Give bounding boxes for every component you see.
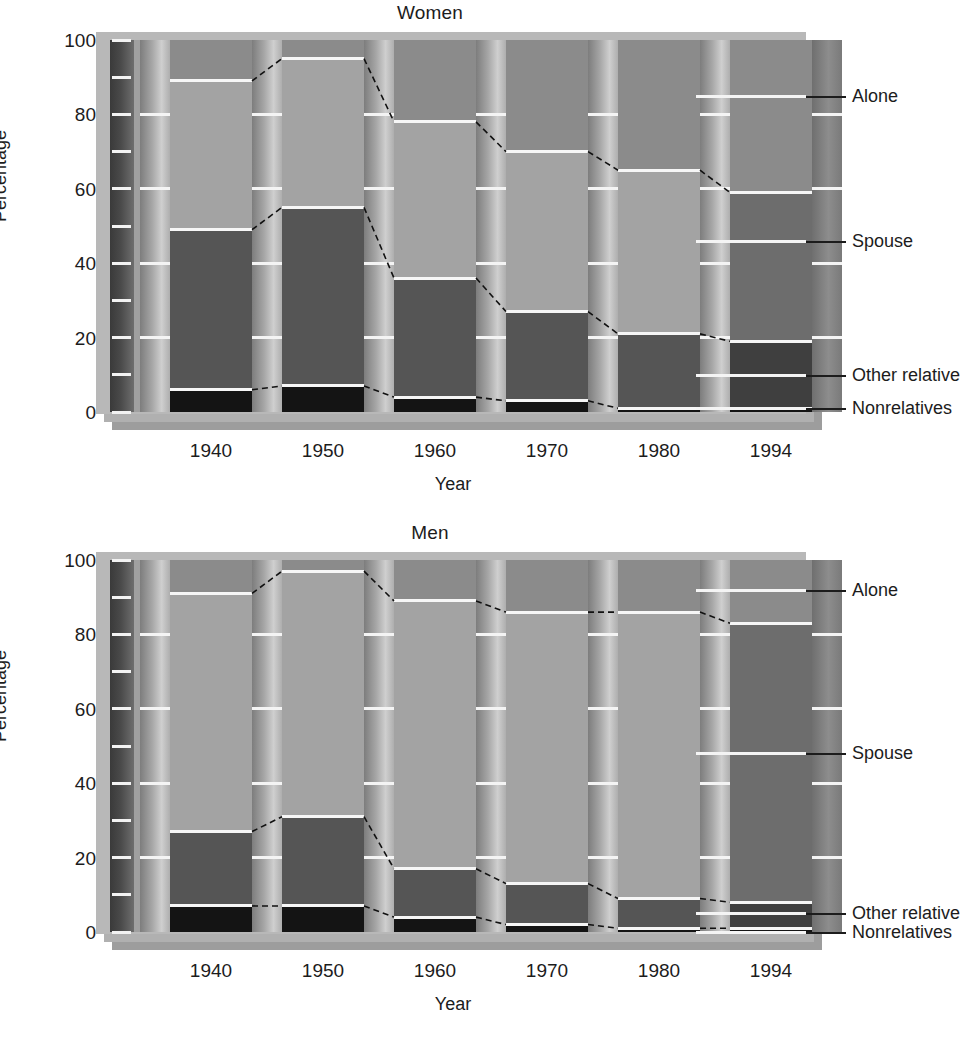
bar-gap-column [364, 560, 394, 932]
y-axis-tick [112, 596, 131, 599]
bar-segment-other-relatives [170, 230, 252, 390]
bar-segment-spouse [394, 601, 476, 869]
segment-separator [170, 388, 252, 391]
y-axis-tick [112, 299, 131, 302]
segment-separator [170, 79, 252, 82]
gap-gridline [476, 707, 506, 710]
gap-gridline [588, 633, 618, 636]
y-axis-tick [112, 782, 131, 785]
segment-separator [282, 384, 364, 387]
stacked-bar[interactable] [394, 40, 476, 412]
stacked-bar[interactable] [506, 560, 588, 932]
y-axis-tick [112, 262, 131, 265]
segment-separator [394, 120, 476, 123]
stacked-bar[interactable] [282, 560, 364, 932]
y-axis-tick-label: 100 [64, 551, 96, 570]
bar-gap-column [476, 560, 506, 932]
chart-title-women: Women [0, 2, 860, 24]
stacked-bar[interactable] [282, 40, 364, 412]
bar-segment-spouse [730, 193, 812, 342]
bar-gap-column [140, 560, 170, 932]
gap-gridline [364, 633, 394, 636]
x-axis-tick-label: 1940 [190, 960, 232, 982]
segment-separator [618, 407, 700, 410]
x-axis-tick-label: 1970 [526, 440, 568, 462]
stacked-bar[interactable] [618, 560, 700, 932]
segment-separator [618, 927, 700, 930]
legend-leader-line [806, 913, 846, 915]
segment-separator [170, 228, 252, 231]
bar-segment-nonrelatives [506, 401, 588, 412]
bar-gap-column [476, 40, 506, 412]
segment-separator [730, 622, 812, 625]
bar-segment-spouse [618, 612, 700, 898]
gap-gridline [364, 262, 394, 265]
gap-gridline [476, 633, 506, 636]
chart-panel-women: Women100806040200PercentageAloneSpouseOt… [0, 0, 960, 519]
bar-segment-other-relatives [394, 869, 476, 917]
y-axis-tick-label: 60 [75, 699, 96, 718]
bar-segment-spouse [282, 571, 364, 817]
bar-segment-alone [170, 40, 252, 81]
bar-segment-nonrelatives [170, 390, 252, 412]
segment-separator [618, 169, 700, 172]
bar-gap-column [140, 40, 170, 412]
segment-separator [394, 867, 476, 870]
x-axis-labels: 194019501960197019801994 [96, 440, 810, 470]
segment-separator [170, 592, 252, 595]
legend-leader-inner [696, 589, 806, 592]
legend-label: Nonrelatives [852, 922, 952, 943]
bar-segment-alone [506, 560, 588, 612]
y-axis-tick-label: 20 [75, 328, 96, 347]
y-axis-tick [112, 39, 131, 42]
gap-gridline [700, 336, 730, 339]
stacked-bar[interactable] [618, 40, 700, 412]
segment-separator [618, 897, 700, 900]
legend-leader-line [806, 590, 846, 592]
y-axis-labels: 100806040200 [30, 32, 102, 412]
y-axis-tick-label: 0 [85, 403, 96, 422]
x-axis-tick-label: 1950 [302, 440, 344, 462]
bar-segment-nonrelatives [394, 397, 476, 412]
x-axis-tick-label: 1994 [750, 960, 792, 982]
bar-gap-column [588, 560, 618, 932]
segment-separator [170, 830, 252, 833]
segment-separator [730, 927, 812, 930]
y-axis-tick [112, 411, 131, 414]
y-axis-tick-label: 40 [75, 254, 96, 273]
y-axis-tick [112, 76, 131, 79]
legend-men: AloneSpouseOther relativesNonrelatives [806, 560, 960, 940]
gap-gridline [140, 707, 170, 710]
x-axis-tick-label: 1980 [638, 440, 680, 462]
gap-gridline [476, 262, 506, 265]
gap-gridline [700, 187, 730, 190]
x-axis-title: Year [96, 994, 810, 1015]
stacked-bar[interactable] [394, 560, 476, 932]
gap-gridline [588, 707, 618, 710]
legend-label: Spouse [852, 230, 913, 251]
legend-leader-line [806, 408, 846, 410]
x-axis-tick-label: 1994 [750, 440, 792, 462]
legend-leader-inner [696, 752, 806, 755]
stacked-bar[interactable] [170, 560, 252, 932]
gap-gridline [588, 336, 618, 339]
segment-separator [282, 815, 364, 818]
gap-gridline [700, 262, 730, 265]
stacked-bar[interactable] [506, 40, 588, 412]
legend-leader-line [806, 241, 846, 243]
legend-leader-line [806, 932, 846, 934]
y-axis-band [110, 40, 134, 412]
gap-gridline [700, 782, 730, 785]
legend-leader-inner [696, 407, 806, 410]
bar-segment-spouse [506, 152, 588, 312]
legend-label: Alone [852, 85, 898, 106]
bar-segment-alone [618, 560, 700, 612]
y-axis-labels: 100806040200 [30, 552, 102, 932]
stacked-bar[interactable] [730, 560, 812, 932]
y-axis-tick [112, 819, 131, 822]
bar-gap-column [588, 40, 618, 412]
segment-separator [730, 340, 812, 343]
gap-gridline [140, 113, 170, 116]
stacked-bar[interactable] [170, 40, 252, 412]
legend-leader-line [806, 753, 846, 755]
